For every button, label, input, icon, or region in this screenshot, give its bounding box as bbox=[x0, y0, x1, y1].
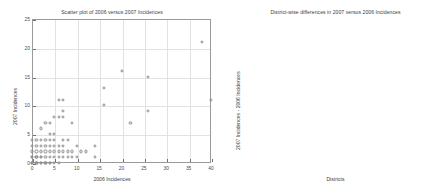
x-axis-tick bbox=[145, 159, 146, 162]
scatter-panel-right: District-wise differences in 2007 versus… bbox=[224, 0, 447, 191]
x-axis-tick bbox=[100, 159, 101, 162]
data-point bbox=[48, 161, 51, 164]
x-axis-tick bbox=[190, 159, 191, 162]
figure-canvas: Scatter plot of 2006 versus 2007 Inciden… bbox=[0, 0, 447, 191]
y-axis-tick-label: 5 bbox=[17, 132, 30, 137]
y-axis-tick-label: 25 bbox=[17, 17, 30, 22]
x-axis-tick-label: 0 bbox=[31, 166, 34, 171]
x-axis-label-left: 2006 Incidences bbox=[0, 176, 224, 182]
x-axis-tick bbox=[123, 159, 124, 162]
x-axis-label-right: Districts bbox=[224, 176, 447, 182]
x-axis-tick bbox=[167, 159, 168, 162]
y-axis-tick-label: 15 bbox=[17, 74, 30, 79]
y-axis-tick bbox=[33, 135, 36, 136]
data-point bbox=[44, 161, 47, 164]
gridline-vertical bbox=[167, 20, 168, 162]
gridline-vertical bbox=[78, 20, 79, 162]
scatter-panel-left: Scatter plot of 2006 versus 2007 Inciden… bbox=[0, 0, 224, 191]
chart-title-left: Scatter plot of 2006 versus 2007 Inciden… bbox=[0, 9, 224, 15]
x-axis-tick-label: 30 bbox=[164, 166, 169, 171]
y-axis-tick bbox=[33, 49, 36, 50]
y-axis-label-left: 2007 Incidences bbox=[12, 88, 18, 125]
chart-title-right: District-wise differences in 2007 versus… bbox=[224, 9, 447, 15]
gridline-horizontal bbox=[33, 49, 210, 50]
plot-area-left bbox=[32, 19, 211, 163]
x-axis-tick-label: 25 bbox=[141, 166, 146, 171]
x-axis-tick bbox=[212, 159, 213, 162]
x-axis-tick-label: 10 bbox=[74, 166, 79, 171]
y-axis-label-right: 2007 Incidences - 2006 Incidences bbox=[235, 71, 241, 150]
x-axis-tick bbox=[78, 159, 79, 162]
x-axis-tick-label: 20 bbox=[119, 166, 124, 171]
gridline-horizontal bbox=[33, 135, 210, 136]
y-axis-tick bbox=[33, 106, 36, 107]
y-axis-tick-label: 0 bbox=[17, 161, 30, 166]
data-point bbox=[57, 161, 60, 164]
gridline-horizontal bbox=[33, 78, 210, 79]
data-point bbox=[35, 161, 38, 164]
y-axis-tick-label: 20 bbox=[17, 45, 30, 50]
y-axis-tick-label: 10 bbox=[17, 103, 30, 108]
y-axis-tick bbox=[33, 78, 36, 79]
gridline-horizontal bbox=[33, 106, 210, 107]
gridline-vertical bbox=[100, 20, 101, 162]
x-axis-tick-label: 35 bbox=[186, 166, 191, 171]
gridline-vertical bbox=[190, 20, 191, 162]
gridline-vertical bbox=[123, 20, 124, 162]
y-axis-tick bbox=[33, 20, 36, 21]
data-point bbox=[209, 98, 212, 101]
data-point bbox=[53, 161, 56, 164]
x-axis-tick-label: 40 bbox=[208, 166, 213, 171]
x-axis-tick-label: 5 bbox=[53, 166, 56, 171]
data-point bbox=[39, 161, 42, 164]
gridline-vertical bbox=[145, 20, 146, 162]
x-axis-tick-label: 15 bbox=[96, 166, 101, 171]
